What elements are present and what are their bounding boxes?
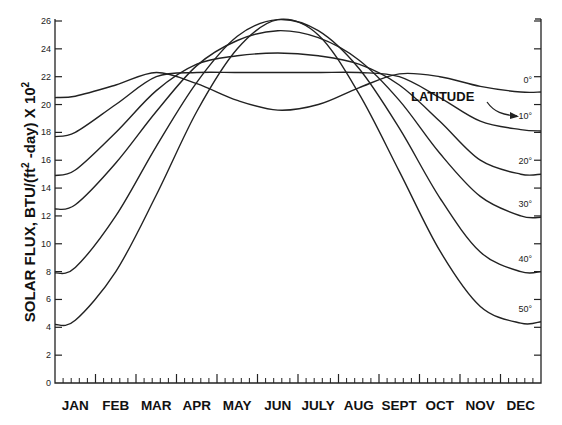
y-tick-label: 4 [46,322,51,332]
month-label-july: JULY [302,398,335,413]
month-label-sept: SEPT [382,398,418,413]
month-label-dec: DEC [506,398,535,413]
latitude-curve-labels: 0°10°20°30°40°50° [518,75,532,314]
y-tick-label: 0 [46,378,51,388]
curve-latitude-30 [55,31,541,218]
x-axis-ticks [63,374,533,383]
y-tick-label: 8 [46,267,51,277]
month-label-feb: FEB [102,398,129,413]
y-tick-label: 16 [41,155,51,165]
y-axis-label: SOLAR FLUX, BTU/(ft2 -day) X 102 [20,81,38,322]
y-tick-label: 2 [46,350,51,360]
y-tick-label: 26 [41,16,51,26]
y-tick-label: 24 [41,44,51,54]
curve-latitude-50 [55,19,541,325]
curve-label-latitude-10: 10° [518,111,532,121]
x-axis-month-labels: JANFEBMARAPRMAYJUNJULYAUGSEPTOCTNOVDEC [62,398,536,413]
y-tick-label: 22 [41,72,51,82]
y-tick-label: 14 [41,183,51,193]
month-label-aug: AUG [344,398,374,413]
y-tick-label: 20 [41,100,51,110]
month-label-apr: APR [182,398,211,413]
curve-latitude-10 [55,72,541,136]
month-label-jan: JAN [62,398,89,413]
curve-latitude-40 [55,19,541,273]
curve-label-latitude-50: 50° [518,304,532,314]
solar-flux-chart: 02468101214161820222426 JANFEBMARAPRMAYJ… [0,0,562,425]
y-tick-label: 10 [41,239,51,249]
month-label-jun: JUN [264,398,291,413]
curve-label-latitude-20: 20° [518,156,532,166]
month-label-mar: MAR [141,398,172,413]
y-axis-label-sup2: 2 [20,81,31,87]
month-label-nov: NOV [466,398,495,413]
month-label-oct: OCT [426,398,455,413]
curve-label-latitude-40: 40° [518,254,532,264]
y-tick-label: 12 [41,211,51,221]
axes [55,19,541,383]
month-label-may: MAY [223,398,252,413]
curve-label-latitude-30: 30° [518,199,532,209]
latitude-curves [55,19,541,325]
y-tick-label: 6 [46,294,51,304]
y-axis-label-main: SOLAR FLUX, BTU/(ft [21,168,38,322]
axis-frame [55,19,541,383]
curve-label-latitude-0: 0° [523,75,532,85]
y-tick-label: 18 [41,127,51,137]
y-axis-label-mid: -day) X 10 [21,87,38,162]
legend-title: LATITUDE [411,89,475,104]
